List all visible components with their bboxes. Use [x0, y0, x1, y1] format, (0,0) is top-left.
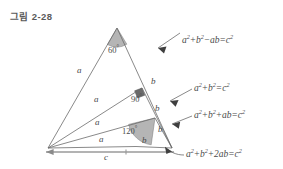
angle-label-60: 60° — [108, 45, 119, 55]
angle-60-degree-symbol: ° — [117, 43, 120, 50]
side-label-a-3: a — [95, 117, 100, 127]
side-label-b-1: b — [151, 76, 156, 86]
formula-4-term: 2ab — [214, 149, 228, 159]
side-label-b-4: b — [142, 135, 147, 145]
base-line-left-arrowhead — [46, 149, 54, 155]
leader-line-3 — [172, 116, 192, 124]
side-label-a-4: a — [99, 134, 104, 144]
triangle-180-side-b — [136, 147, 172, 149]
angle-60-value: 60 — [108, 45, 117, 55]
formula-60-degree-triangle: a2+b2−ab=c2 — [182, 35, 233, 45]
formula-120-degree-triangle: a2+b2+ab=c2 — [194, 110, 245, 120]
angle-120-degree-symbol: ° — [135, 124, 138, 131]
leader-arrowhead-2 — [170, 100, 179, 107]
side-label-a-2: a — [94, 94, 99, 104]
formula-degenerate-triangle: a2+b2+2ab=c2 — [186, 149, 242, 159]
figure-page: 그림 2-28 — [0, 0, 283, 169]
side-label-a-1: a — [77, 65, 82, 75]
side-label-c: c — [104, 152, 108, 162]
formula-2-c-exponent: 2 — [226, 81, 229, 88]
leader-line-1 — [158, 33, 180, 48]
formula-4-c-exponent: 2 — [239, 147, 242, 154]
angle-120-value: 120 — [122, 126, 135, 136]
leader-arrowhead-3 — [172, 122, 180, 129]
angle-90-value: 90 — [131, 94, 140, 104]
triangle-60-side-a — [48, 28, 117, 148]
leader-line-2 — [170, 89, 192, 101]
angle-label-90: 90° — [131, 94, 142, 104]
angle-label-120: 120° — [122, 126, 137, 136]
triangle-180-side-a — [48, 147, 136, 149]
side-label-b-3: b — [158, 124, 163, 134]
angle-90-degree-symbol: ° — [140, 92, 143, 99]
side-label-b-2: b — [155, 103, 160, 113]
formula-90-degree-triangle: a2+b2=c2 — [194, 83, 230, 93]
formula-3-c-exponent: 2 — [242, 108, 245, 115]
formula-1-c-exponent: 2 — [230, 33, 233, 40]
